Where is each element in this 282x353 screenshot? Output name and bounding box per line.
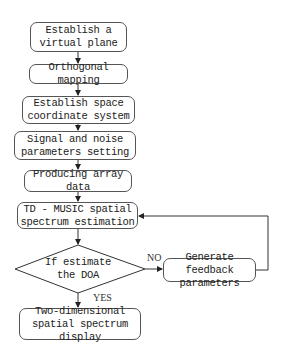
step-signal-noise-parameters: Signal and noise parameters setting <box>14 131 136 160</box>
step-establish-virtual-plane: Establish a virtual plane <box>30 22 127 52</box>
decision-label: If estimate the DOA <box>38 256 118 282</box>
step-establish-coordinate-system: Establish space coordinate system <box>22 96 135 124</box>
step-spectrum-display: Two-dimensional spatial spectrum display <box>19 308 141 340</box>
step-orthogonal-mapping: Orthogonal mapping <box>29 64 128 84</box>
step-producing-array-data: Producing array data <box>24 170 132 192</box>
edge-label-no: NO <box>147 252 161 263</box>
edge-label-yes: YES <box>93 292 112 303</box>
step-td-music-estimation: TD - MUSIC spatial spectrum estimation <box>17 202 138 229</box>
step-generate-feedback: Generate feedback parameters <box>163 258 256 282</box>
